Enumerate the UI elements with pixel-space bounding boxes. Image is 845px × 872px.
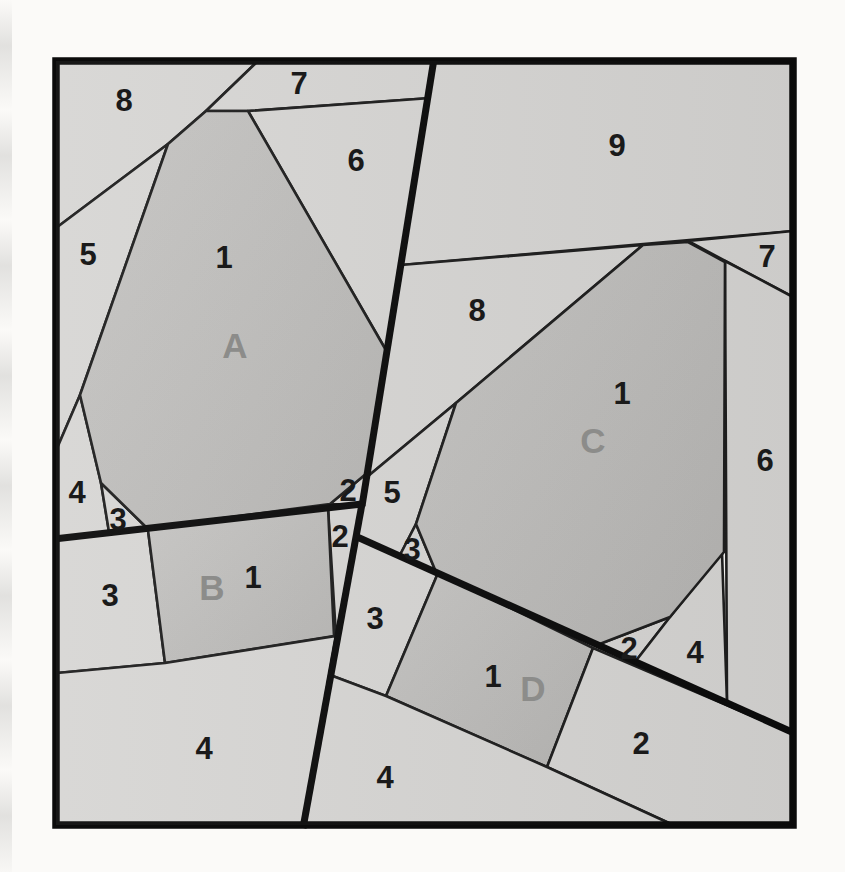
paper-piecing-diagram: 87651A43223B149871C6532431D24 bbox=[0, 0, 845, 872]
piece-C-6 bbox=[725, 261, 793, 733]
label-D2-number: 2 bbox=[632, 726, 649, 761]
label-C7-number: 7 bbox=[758, 239, 775, 274]
label-A-letter: A bbox=[222, 326, 247, 365]
label-A1-number: 1 bbox=[215, 240, 232, 275]
label-C6-number: 6 bbox=[756, 443, 773, 478]
label-C3-number: 3 bbox=[403, 532, 420, 567]
label-A7-number: 7 bbox=[290, 66, 307, 101]
label-C1-number: 1 bbox=[613, 376, 630, 411]
label-A5-number: 5 bbox=[79, 237, 96, 272]
label-C5-number: 5 bbox=[383, 475, 400, 510]
label-A3-number: 3 bbox=[109, 502, 126, 537]
label-D4-number: 4 bbox=[376, 760, 394, 795]
label-D1-number: 1 bbox=[484, 659, 501, 694]
label-B-letter: B bbox=[199, 568, 224, 607]
label-B1-number: 1 bbox=[244, 560, 261, 595]
label-A2-number: 2 bbox=[339, 473, 356, 508]
label-D3-number: 3 bbox=[366, 601, 383, 636]
label-C-letter: C bbox=[580, 421, 605, 460]
scanned-page: 87651A43223B149871C6532431D24 bbox=[0, 0, 845, 872]
label-A8-number: 8 bbox=[115, 83, 132, 118]
label-A4-number: 4 bbox=[68, 475, 86, 510]
label-B4-number: 4 bbox=[195, 731, 213, 766]
label-C9-number: 9 bbox=[608, 128, 625, 163]
label-B3-number: 3 bbox=[101, 578, 118, 613]
label-C8-number: 8 bbox=[468, 293, 485, 328]
label-B2-number: 2 bbox=[331, 519, 348, 554]
label-D-letter: D bbox=[520, 669, 545, 708]
label-C2-number: 2 bbox=[620, 631, 637, 666]
label-C4-number: 4 bbox=[686, 635, 704, 670]
piece-C-9 bbox=[401, 61, 793, 265]
label-A6-number: 6 bbox=[347, 143, 364, 178]
